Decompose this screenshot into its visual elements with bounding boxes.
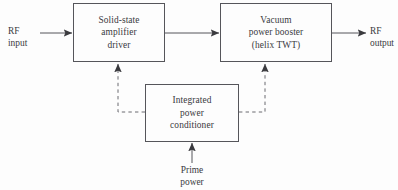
block-vacuum-power-booster[interactable]: Vacuum power booster (helix TWT) xyxy=(220,3,332,62)
block-label-power-conditioner: Integrated power conditioner xyxy=(170,94,214,131)
label-rf-output: RF output xyxy=(370,25,394,50)
block-solid-state-amplifier-driver[interactable]: Solid-state amplifier driver xyxy=(73,3,165,62)
label-prime-power: Prime power xyxy=(168,164,216,189)
connector-conditioner-to-booster xyxy=(239,64,265,112)
block-integrated-power-conditioner[interactable]: Integrated power conditioner xyxy=(145,84,239,142)
block-label-power-booster: Vacuum power booster (helix TWT) xyxy=(249,14,304,51)
connector-conditioner-to-driver xyxy=(118,64,145,112)
block-label-amplifier-driver: Solid-state amplifier driver xyxy=(98,14,139,51)
diagram-canvas: Solid-state amplifier driver Vacuum powe… xyxy=(0,0,398,190)
label-rf-input: RF input xyxy=(8,25,27,50)
